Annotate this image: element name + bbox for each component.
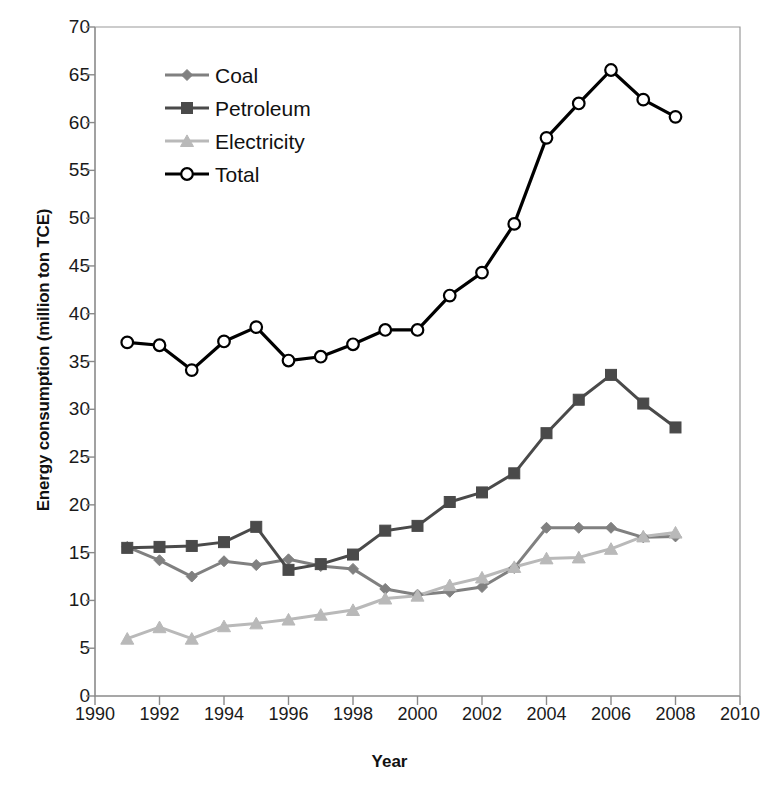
x-axis-tick-label: 2010 bbox=[705, 704, 775, 725]
data-point-marker bbox=[251, 560, 262, 571]
x-axis-tick-label: 1996 bbox=[254, 704, 324, 725]
x-axis-tick-label: 2002 bbox=[447, 704, 517, 725]
data-point-marker bbox=[122, 542, 133, 553]
energy-consumption-chart: Energy consumption (million ton TCE) 051… bbox=[0, 0, 779, 791]
data-point-marker bbox=[379, 324, 391, 336]
x-axis-tick-label: 1992 bbox=[125, 704, 195, 725]
data-point-marker bbox=[670, 111, 682, 123]
data-point-marker bbox=[218, 336, 230, 348]
legend-label-electricity: Electricity bbox=[215, 130, 305, 153]
data-point-marker bbox=[251, 521, 262, 532]
data-point-marker bbox=[605, 64, 617, 76]
data-point-marker bbox=[250, 321, 262, 333]
data-point-marker bbox=[182, 103, 193, 114]
data-point-marker bbox=[380, 525, 391, 536]
data-point-marker bbox=[219, 556, 230, 567]
data-point-marker bbox=[573, 522, 584, 533]
data-point-marker bbox=[412, 324, 424, 336]
legend-label-total: Total bbox=[215, 163, 259, 186]
data-point-marker bbox=[181, 168, 193, 180]
data-point-marker bbox=[348, 549, 359, 560]
legend-label-petroleum: Petroleum bbox=[215, 97, 311, 120]
data-point-marker bbox=[154, 339, 166, 351]
data-point-marker bbox=[444, 290, 456, 302]
data-point-marker bbox=[573, 98, 585, 110]
x-axis-tick-label: 1994 bbox=[189, 704, 259, 725]
data-point-marker bbox=[509, 468, 520, 479]
data-point-marker bbox=[670, 422, 681, 433]
legend-label-coal: Coal bbox=[215, 64, 258, 87]
x-axis-tick-label: 1998 bbox=[318, 704, 388, 725]
data-point-marker bbox=[606, 369, 617, 380]
data-point-marker bbox=[541, 428, 552, 439]
data-point-marker bbox=[315, 559, 326, 570]
data-point-marker bbox=[186, 571, 197, 582]
data-point-marker bbox=[153, 621, 166, 633]
data-point-marker bbox=[638, 398, 649, 409]
data-point-marker bbox=[477, 487, 488, 498]
data-point-marker bbox=[315, 351, 327, 363]
series-line-total bbox=[127, 70, 675, 370]
series-line-coal bbox=[127, 528, 675, 595]
data-point-marker bbox=[573, 394, 584, 405]
data-point-marker bbox=[154, 541, 165, 552]
data-point-marker bbox=[541, 132, 553, 144]
data-point-marker bbox=[219, 537, 230, 548]
data-point-marker bbox=[154, 555, 165, 566]
data-point-marker bbox=[606, 522, 617, 533]
data-point-marker bbox=[637, 94, 649, 106]
data-point-marker bbox=[508, 218, 520, 230]
plot-area: CoalPetroleumElectricityTotal bbox=[0, 0, 779, 791]
data-point-marker bbox=[347, 338, 359, 350]
data-point-marker bbox=[444, 496, 455, 507]
data-point-marker bbox=[412, 520, 423, 531]
series-line-petroleum bbox=[127, 375, 675, 570]
x-axis-tick-label: 1990 bbox=[60, 704, 130, 725]
x-axis-tick-label: 2000 bbox=[383, 704, 453, 725]
data-point-marker bbox=[186, 540, 197, 551]
data-point-marker bbox=[186, 364, 198, 376]
data-point-marker bbox=[121, 337, 133, 349]
series-line-electricity bbox=[127, 533, 675, 639]
x-axis-tick-label: 2008 bbox=[641, 704, 711, 725]
data-point-marker bbox=[283, 355, 295, 367]
x-axis-tick-label: 2006 bbox=[576, 704, 646, 725]
data-point-marker bbox=[283, 564, 294, 575]
data-point-marker bbox=[476, 267, 488, 279]
data-point-marker bbox=[182, 70, 193, 81]
x-axis-tick-label: 2004 bbox=[512, 704, 582, 725]
